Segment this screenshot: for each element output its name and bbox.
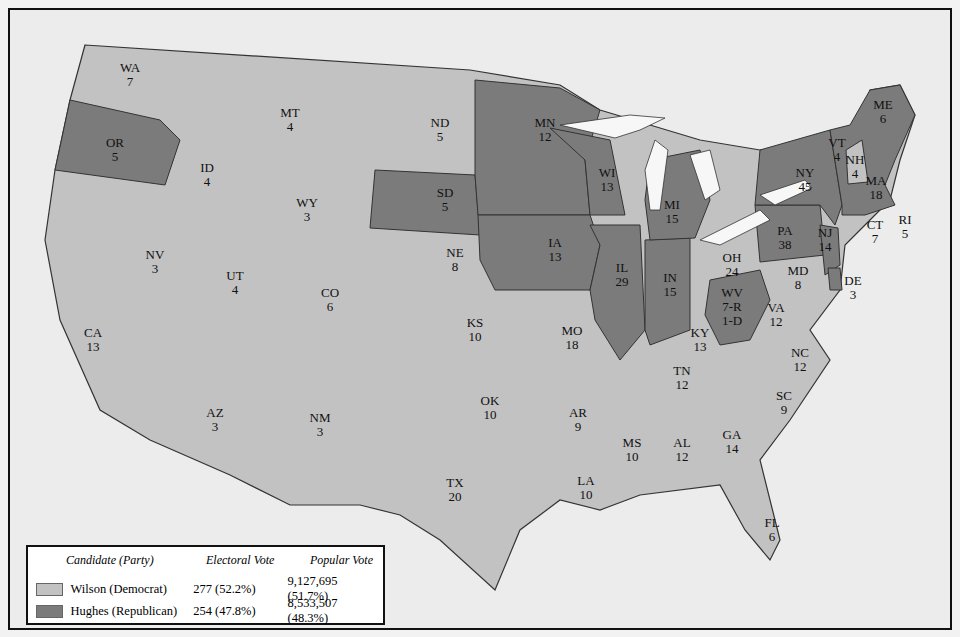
state-label-nh: NH 4 <box>846 153 865 181</box>
candidate-label: Hughes (Republican) <box>71 604 194 619</box>
state-label-nj: NJ 14 <box>818 226 832 254</box>
state-label-ky: KY 13 <box>691 326 710 354</box>
state-label-la: LA 10 <box>577 474 594 502</box>
electoral-value: 277 (52.2%) <box>193 582 287 597</box>
state-label-co: CO 6 <box>321 286 339 314</box>
state-label-mt: MT 4 <box>280 106 300 134</box>
state-label-al: AL 12 <box>673 436 690 464</box>
state-label-sd: SD 5 <box>437 186 454 214</box>
state-label-ok: OK 10 <box>481 394 500 422</box>
state-label-ar: AR 9 <box>569 406 587 434</box>
legend-row-hughes: Hughes (Republican) 254 (47.8%) 8,533,50… <box>36 596 376 626</box>
state-label-wy: WY 3 <box>296 196 318 224</box>
state-label-nv: NV 3 <box>146 248 165 276</box>
state-label-tn: TN 12 <box>673 364 690 392</box>
state-de <box>828 268 842 290</box>
state-label-mn: MN 12 <box>535 116 556 144</box>
state-label-ms: MS 10 <box>623 436 642 464</box>
state-label-ia: IA 13 <box>548 236 562 264</box>
state-label-az: AZ 3 <box>206 406 223 434</box>
state-label-ri: RI 5 <box>899 213 912 241</box>
state-label-va: VA 12 <box>767 301 784 329</box>
state-label-ny: NY 45 <box>796 166 815 194</box>
state-sd <box>370 170 480 235</box>
state-label-tx: TX 20 <box>446 476 463 504</box>
state-label-vt: VT 4 <box>828 136 845 164</box>
state-label-sc: SC 9 <box>776 389 792 417</box>
electoral-value: 254 (47.8%) <box>193 604 287 619</box>
popular-value: 8,533,507 (48.3%) <box>288 596 376 626</box>
legend-header-popular: Popular Vote <box>310 553 373 568</box>
state-label-id: ID 4 <box>200 161 214 189</box>
state-label-nd: ND 5 <box>431 116 450 144</box>
state-label-ca: CA 13 <box>84 326 102 354</box>
state-label-mi: MI 15 <box>664 198 680 226</box>
state-label-in: IN 15 <box>663 271 677 299</box>
state-label-de: DE 3 <box>844 274 861 302</box>
state-label-ut: UT 4 <box>226 269 243 297</box>
state-label-wa: WA 7 <box>120 61 140 89</box>
state-label-pa: PA 38 <box>777 224 792 252</box>
state-label-or: OR 5 <box>106 136 124 164</box>
state-label-md: MD 8 <box>788 264 809 292</box>
state-label-mo: MO 18 <box>562 324 583 352</box>
state-label-il: IL 29 <box>616 261 629 289</box>
state-label-ks: KS 10 <box>467 316 484 344</box>
state-label-oh: OH 24 <box>723 251 742 279</box>
state-label-nc: NC 12 <box>791 346 809 374</box>
state-label-fl: FL 6 <box>764 516 779 544</box>
candidate-label: Wilson (Democrat) <box>71 582 194 597</box>
state-label-ct: CT 7 <box>867 218 884 246</box>
legend-header-candidate: Candidate (Party) <box>66 553 154 568</box>
democrat-swatch <box>36 583 63 596</box>
legend: Candidate (Party) Electoral Vote Popular… <box>26 545 385 625</box>
legend-header-electoral: Electoral Vote <box>206 553 274 568</box>
state-label-nm: NM 3 <box>310 411 331 439</box>
state-label-me: ME 6 <box>873 98 893 126</box>
state-label-wv: WV 7-R 1-D <box>721 286 743 328</box>
state-label-ne: NE 8 <box>446 246 463 274</box>
state-label-wi: WI 13 <box>599 166 616 194</box>
state-label-ma: MA 18 <box>866 174 887 202</box>
state-ia <box>478 215 600 290</box>
republican-swatch <box>36 605 63 618</box>
state-label-ga: GA 14 <box>723 428 742 456</box>
